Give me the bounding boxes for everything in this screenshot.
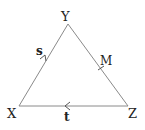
vertex-label-y: Y [60,9,70,24]
vertex-label-x: X [7,106,17,121]
vertex-label-z: Z [128,106,137,121]
side-xy [19,24,68,106]
vector-label-t: t [64,110,70,124]
vector-label-s: s [36,44,43,58]
point-label-m: M [100,54,112,68]
triangle-diagram: Y X Z M s t [0,0,145,130]
side-yz [68,24,128,106]
